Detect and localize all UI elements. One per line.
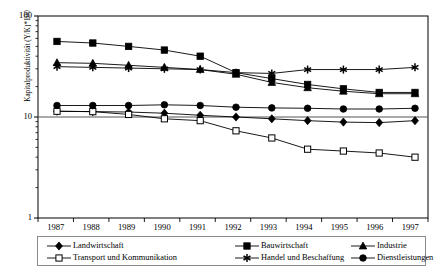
x-axis-tick-label: 1993 bbox=[248, 222, 288, 232]
marker-open-square bbox=[340, 148, 346, 154]
marker-filled-diamond bbox=[233, 113, 240, 121]
marker-filled-diamond bbox=[376, 119, 383, 127]
marker-filled-circle bbox=[269, 105, 276, 112]
x-axis-tick-label: 1995 bbox=[319, 222, 359, 232]
marker-open-square bbox=[126, 111, 132, 117]
chart-container: Kapitalproduktivität (Y/K)*100 Landwirts… bbox=[0, 0, 438, 268]
marker-filled-diamond bbox=[56, 242, 63, 250]
legend-label: Industrie bbox=[377, 240, 407, 252]
marker-open-square bbox=[90, 109, 96, 115]
marker-filled-square bbox=[54, 38, 60, 44]
x-axis-tick-label: 1988 bbox=[71, 222, 111, 232]
marker-open-square bbox=[56, 255, 62, 261]
marker-filled-circle bbox=[233, 104, 240, 111]
x-axis-tick-label: 1996 bbox=[355, 222, 395, 232]
marker-filled-square bbox=[125, 43, 131, 49]
y-axis-tick-label: 100 bbox=[10, 10, 32, 20]
marker-filled-square bbox=[244, 243, 250, 249]
marker-filled-square bbox=[161, 47, 167, 53]
x-axis-tick-label: 1987 bbox=[36, 222, 76, 232]
marker-filled-circle bbox=[161, 102, 168, 109]
legend-marker-filled-triangle-icon bbox=[350, 240, 376, 252]
marker-filled-circle bbox=[340, 106, 347, 113]
marker-filled-circle bbox=[54, 102, 61, 109]
marker-open-square bbox=[412, 154, 418, 160]
x-axis-tick-label: 1991 bbox=[178, 222, 218, 232]
marker-open-square bbox=[269, 135, 275, 141]
x-axis-tick-label: 1990 bbox=[142, 222, 182, 232]
x-axis-tick-label: 1992 bbox=[213, 222, 253, 232]
legend-label: Bauwirtschaft bbox=[261, 240, 308, 252]
legend-marker-open-square-icon bbox=[46, 252, 72, 264]
marker-filled-circle bbox=[412, 105, 419, 112]
marker-filled-circle bbox=[197, 102, 204, 109]
chart-legend: LandwirtschaftBauwirtschaftIndustrieTran… bbox=[37, 236, 426, 266]
legend-label: Dienstleistungen bbox=[377, 252, 433, 264]
marker-filled-diamond bbox=[340, 118, 347, 126]
marker-filled-diamond bbox=[412, 117, 419, 125]
marker-filled-circle bbox=[376, 106, 383, 113]
y-axis-tick-label: 10 bbox=[10, 111, 32, 121]
marker-filled-diamond bbox=[268, 115, 275, 123]
marker-filled-circle bbox=[90, 102, 97, 109]
legend-label: Transport und Kommunikation bbox=[73, 252, 177, 264]
x-axis-tick-label: 1994 bbox=[284, 222, 324, 232]
marker-open-square bbox=[197, 118, 203, 124]
x-axis-tick-label: 1997 bbox=[390, 222, 430, 232]
marker-filled-diamond bbox=[304, 117, 311, 125]
series-dienstleistungen bbox=[54, 102, 419, 113]
x-axis-tick-label: 1989 bbox=[107, 222, 147, 232]
legend-marker-asterisk-icon bbox=[234, 252, 260, 264]
marker-filled-circle bbox=[360, 255, 367, 262]
y-axis-tick-label: 1 bbox=[10, 212, 32, 222]
marker-filled-triangle bbox=[359, 242, 367, 249]
series-bauwirtschaft bbox=[54, 38, 418, 95]
series-line bbox=[57, 41, 415, 92]
legend-label: Landwirtschaft bbox=[73, 240, 124, 252]
legend-marker-filled-square-icon bbox=[234, 240, 260, 252]
legend-marker-filled-diamond-icon bbox=[46, 240, 72, 252]
marker-filled-circle bbox=[125, 102, 132, 109]
marker-open-square bbox=[305, 146, 311, 152]
marker-open-square bbox=[376, 150, 382, 156]
marker-filled-circle bbox=[304, 105, 311, 112]
legend-label: Handel und Beschaffung bbox=[261, 252, 344, 264]
legend-marker-filled-circle-icon bbox=[350, 252, 376, 264]
marker-open-square bbox=[161, 116, 167, 122]
marker-filled-square bbox=[90, 40, 96, 46]
marker-filled-square bbox=[197, 53, 203, 59]
marker-open-square bbox=[233, 128, 239, 134]
series-handel-und-beschaffung bbox=[54, 63, 419, 78]
